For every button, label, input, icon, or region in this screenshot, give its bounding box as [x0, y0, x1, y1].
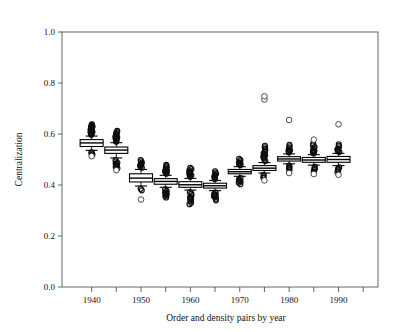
outlier-point-extreme-high [311, 137, 317, 143]
outlier-point-extreme-low [262, 178, 268, 184]
x-tick-label: 1970 [231, 295, 250, 305]
y-tick-label: 1.0 [44, 27, 56, 37]
y-tick-label: 0.2 [44, 231, 55, 241]
outlier-point-extreme-high [286, 117, 292, 123]
outlier-point-extreme-low [336, 172, 342, 178]
outlier-point-extreme-low [114, 167, 120, 173]
box-plot-group[interactable] [302, 137, 325, 177]
box-plot-group[interactable] [154, 162, 177, 200]
x-tick-label: 1950 [132, 295, 151, 305]
outlier-point-extreme-high [336, 122, 342, 128]
box-plot-figure: 0.00.20.40.60.81.01940195019601970198019… [0, 0, 396, 332]
plot-content: 0.00.20.40.60.81.01940195019601970198019… [14, 27, 378, 323]
y-tick-label: 0.4 [44, 180, 56, 190]
outlier-point-extreme-low [138, 197, 144, 203]
y-tick-label: 0.8 [44, 78, 56, 88]
box-plot-group[interactable] [253, 93, 276, 183]
box-plot-group[interactable] [204, 169, 227, 203]
y-axis-title: Centralization [14, 132, 24, 186]
x-tick-label: 1990 [330, 295, 349, 305]
box-plot-group[interactable] [130, 158, 153, 203]
outlier-point-extreme-low [286, 170, 292, 176]
box-plot-group[interactable] [228, 156, 251, 187]
x-tick-label: 1980 [280, 295, 299, 305]
x-tick-label: 1960 [181, 295, 200, 305]
x-axis-title: Order and density pairs by year [166, 313, 286, 323]
box-plot-group[interactable] [105, 128, 128, 173]
outlier-point-extreme-low [89, 153, 95, 159]
outlier-point-extreme-high [262, 93, 268, 99]
y-tick-label: 0.6 [44, 129, 56, 139]
box-plot-group[interactable] [179, 165, 202, 206]
box-plot-group[interactable] [278, 117, 301, 176]
y-tick-label: 0.0 [44, 282, 56, 292]
box-plot-group[interactable] [80, 122, 103, 159]
box-plot-group[interactable] [327, 122, 350, 178]
outlier-point-extreme-low [311, 171, 317, 177]
outlier-point-low [139, 188, 144, 193]
x-tick-label: 1940 [83, 295, 102, 305]
